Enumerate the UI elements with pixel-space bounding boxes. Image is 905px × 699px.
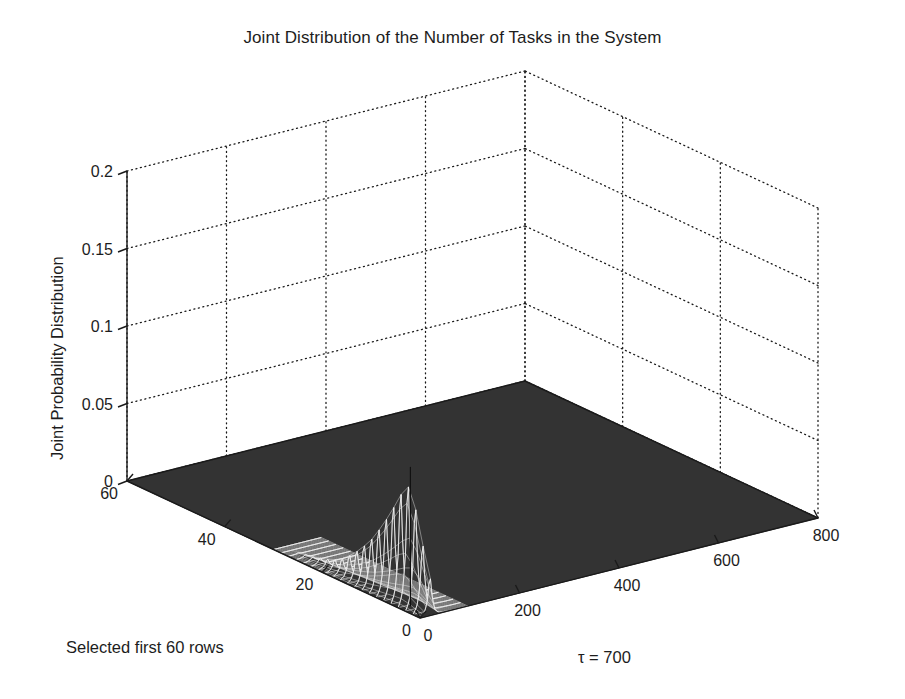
- plot-3d-scene: 00.050.10.150.202040600200400600800: [0, 0, 905, 699]
- z-tick-label: 0.2: [91, 163, 113, 180]
- surface-mesh: [127, 381, 818, 618]
- y-tick-label: 20: [296, 576, 314, 593]
- figure-canvas: Joint Distribution of the Number of Task…: [0, 0, 905, 699]
- y-tick-label: 60: [100, 485, 118, 502]
- z-tick-label: 0.05: [82, 396, 113, 413]
- x-tick-label: 400: [614, 577, 641, 594]
- x-tick-label: 0: [424, 627, 433, 644]
- x-tick-label: 600: [713, 552, 740, 569]
- y-tick-label: 0: [402, 622, 411, 639]
- x-tick-label: 200: [514, 602, 541, 619]
- y-tick-label: 40: [198, 531, 216, 548]
- z-tick-label: 0.15: [82, 241, 113, 258]
- z-tick-label: 0.1: [91, 318, 113, 335]
- x-tick-label: 800: [813, 527, 840, 544]
